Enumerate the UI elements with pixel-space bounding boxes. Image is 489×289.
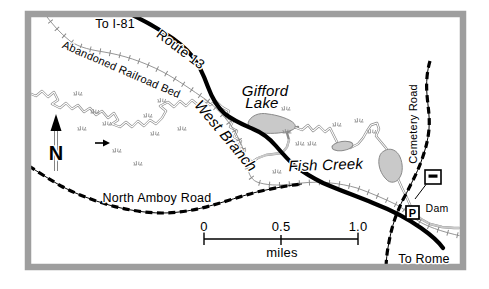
marsh-icon xyxy=(178,126,187,130)
marsh-icon xyxy=(273,169,282,173)
fish-creek-outlet-core xyxy=(398,179,411,207)
north-amboy-road-label: North Amboy Road xyxy=(103,191,212,205)
north-arrow-head xyxy=(51,114,62,131)
fish-creek-upper xyxy=(294,125,337,142)
route-13-label: Route 13 xyxy=(154,26,208,72)
north-amboy-dashes xyxy=(29,166,302,213)
gifford-lake-label-line2: Lake xyxy=(245,94,278,111)
scale-bar xyxy=(204,233,358,246)
marsh-icon xyxy=(296,141,305,145)
fish-creek-map: N 0 0.5 1.0 miles P To I-81 Route 13 Aba… xyxy=(0,0,489,289)
marsh-icon xyxy=(103,121,112,125)
map-canvas: N 0 0.5 1.0 miles P To I-81 Route 13 Aba… xyxy=(0,0,489,289)
fish-creek-middle-core xyxy=(350,123,389,153)
marsh-icon xyxy=(113,148,122,152)
abandoned-railroad-label: Abandoned Railroad Bed xyxy=(61,38,183,100)
north-amboy-road-line xyxy=(29,166,302,213)
marsh-icon xyxy=(134,161,143,165)
parking-label: P xyxy=(409,207,417,219)
marsh-icon xyxy=(158,98,167,102)
to-i81-label: To I-81 xyxy=(95,17,135,31)
marsh-icon xyxy=(333,122,342,126)
marsh-icon xyxy=(74,91,83,95)
pond-shape xyxy=(331,140,353,152)
flow-direction-arrow-icon xyxy=(95,140,110,147)
scale-label-05: 0.5 xyxy=(272,219,291,234)
flow-arrow-head xyxy=(103,140,110,147)
dam-marker-leader-line xyxy=(415,185,426,200)
marsh-icon xyxy=(308,141,317,145)
marsh-icon xyxy=(151,131,160,135)
parking-icon: P xyxy=(406,206,419,219)
north-label: N xyxy=(49,142,64,164)
to-rome-label: To Rome xyxy=(398,252,449,266)
fish-creek-label: Fish Creek xyxy=(288,155,364,175)
marsh-icon xyxy=(78,126,87,130)
dam-structure-icon xyxy=(415,170,441,199)
marsh-icon xyxy=(282,106,291,110)
cemetery-road-label: Cemetery Road xyxy=(407,84,419,164)
marsh-icon xyxy=(355,118,364,122)
scale-label-10: 1.0 xyxy=(349,219,368,234)
scale-label-0: 0 xyxy=(200,219,207,234)
scale-unit-label: miles xyxy=(266,245,298,260)
dam-label: Dam xyxy=(426,202,449,214)
dam-impoundment-shape xyxy=(379,149,402,182)
marsh-icon xyxy=(144,113,153,117)
dam-marker-bar xyxy=(429,175,438,178)
wide-band-below-dam xyxy=(415,214,461,228)
